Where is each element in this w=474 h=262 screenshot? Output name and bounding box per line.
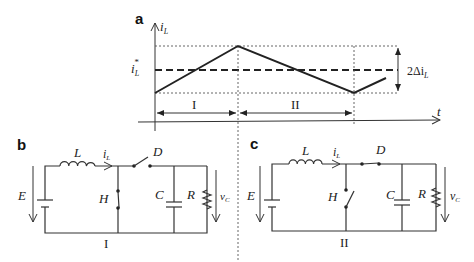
switch-d-contact-right: [148, 164, 152, 168]
panel-b-label: b: [17, 136, 26, 153]
diode-label: D: [375, 142, 386, 157]
ripple-label: 2ΔiL: [407, 64, 429, 80]
diode-label: D: [152, 144, 163, 159]
inductor-label: L: [73, 145, 81, 160]
y-axis-label: iL: [160, 19, 169, 36]
source-label: E: [17, 188, 26, 203]
boost-converter-figure: a iL t iL* 2ΔiL I II b: [0, 0, 474, 262]
inductor-label: L: [301, 143, 309, 158]
wire-bottom: [45, 166, 207, 233]
switch-h-blade-closed: [118, 191, 119, 208]
interval-2-label: II: [291, 97, 300, 112]
wire-bottom: [272, 164, 436, 231]
interval-1-label: I: [192, 97, 196, 112]
switch-h-label: H: [98, 191, 109, 206]
wire-left-top: [272, 164, 289, 200]
inductor-symbol: [60, 162, 95, 166]
switch-h-blade-open: [346, 191, 354, 207]
inductor-symbol: [289, 160, 322, 164]
state-label: II: [340, 235, 349, 250]
switch-d-blade-closed: [362, 163, 379, 164]
x-axis: [138, 120, 440, 122]
resistor-label: R: [186, 187, 195, 202]
state-label: I: [104, 236, 108, 251]
switch-h-contact-top: [344, 188, 348, 192]
panel-c-label: c: [250, 135, 258, 152]
capacitor-label: C: [155, 187, 164, 202]
panel-a-waveform: a iL t iL* 2ΔiL I II: [131, 10, 441, 262]
switch-h-label: H: [327, 189, 338, 204]
output-voltage-label: vC: [220, 190, 230, 204]
panel-c-circuit: c E L iL H D C R: [246, 135, 460, 250]
reference-current-label: iL*: [131, 57, 140, 78]
current-label: iL: [103, 147, 110, 162]
current-label: iL: [333, 145, 340, 160]
switch-d-blade-open: [134, 157, 148, 166]
panel-a-label: a: [135, 10, 144, 27]
wire-left-top: [45, 166, 60, 200]
output-voltage-label: vC: [450, 189, 460, 204]
panel-b-circuit: b E L iL H D C R: [17, 136, 230, 251]
source-label: E: [246, 188, 255, 203]
x-axis-label: t: [437, 104, 441, 119]
capacitor-label: C: [386, 187, 395, 202]
resistor-label: R: [417, 186, 426, 201]
